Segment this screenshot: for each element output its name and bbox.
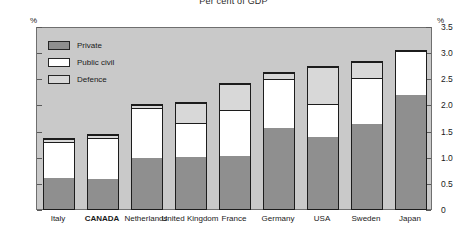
y-tick-label-right: 3.5 <box>441 23 465 31</box>
bar-segment-private <box>88 179 118 209</box>
bar-segment-public-civil <box>308 104 338 137</box>
bar-segment-defence <box>352 62 382 78</box>
bar-segment-private <box>44 178 74 209</box>
chart-title: Per cent of GDP <box>0 0 467 6</box>
bar-segment-private <box>220 156 250 209</box>
bar-stack[interactable] <box>87 134 119 210</box>
bar-segment-public-civil <box>396 51 426 95</box>
bar-segment-private <box>264 128 294 209</box>
bar-segment-defence <box>220 84 250 110</box>
x-axis-category-labels: ItalyCANADANetherlandsUnited KingdomFran… <box>36 214 432 248</box>
y-tick-label-right: 2.0 <box>441 101 465 109</box>
y-tick-label-right: 1.0 <box>441 154 465 162</box>
bar-stack[interactable] <box>43 138 75 210</box>
bar-segment-public-civil <box>220 110 250 156</box>
bar-stack[interactable] <box>175 102 207 210</box>
bar-segment-public-civil <box>132 108 162 157</box>
bar-segment-private <box>352 124 382 209</box>
y-tick-label-right: 1.5 <box>441 128 465 136</box>
bar-segment-public-civil <box>88 138 118 179</box>
bar-segment-defence <box>308 67 338 104</box>
bar-segment-public-civil <box>352 78 382 125</box>
bar-stack[interactable] <box>219 83 251 210</box>
bar-stack[interactable] <box>351 61 383 210</box>
y-tick-label-right: 0 <box>441 206 465 214</box>
bar-stack[interactable] <box>263 72 295 210</box>
bar-segment-defence <box>176 103 206 124</box>
bar-segment-public-civil <box>44 142 74 178</box>
bar-segment-private <box>308 137 338 209</box>
bar-segment-private <box>132 158 162 209</box>
bar-segment-private <box>396 95 426 209</box>
y-tick-label-right: 2.5 <box>441 75 465 83</box>
y-tick-mark-left <box>37 210 42 211</box>
y-tick-label-right: 3.0 <box>441 49 465 57</box>
bar-stack[interactable] <box>307 66 339 210</box>
bar-segment-public-civil <box>176 123 206 156</box>
x-axis-label-japan: Japan <box>379 214 441 224</box>
bar-segment-public-civil <box>264 79 294 128</box>
y-tick-mark-right <box>426 210 431 211</box>
bar-segment-private <box>176 157 206 209</box>
y-tick-label-right: 0.5 <box>441 180 465 188</box>
y-axis-unit-left: % <box>30 16 37 25</box>
bar-stack[interactable] <box>395 50 427 210</box>
bar-stack[interactable] <box>131 104 163 210</box>
bars-layer <box>36 27 432 210</box>
